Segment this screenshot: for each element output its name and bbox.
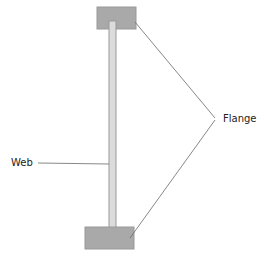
web-label: Web bbox=[11, 157, 33, 168]
web-leader-line bbox=[38, 163, 109, 164]
i-beam-diagram bbox=[0, 0, 264, 258]
flange-label: Flange bbox=[223, 113, 257, 124]
bottom-flange bbox=[85, 227, 134, 249]
flange-leader-top bbox=[135, 22, 215, 118]
web bbox=[109, 21, 116, 233]
flange-leader-bottom bbox=[130, 120, 215, 238]
